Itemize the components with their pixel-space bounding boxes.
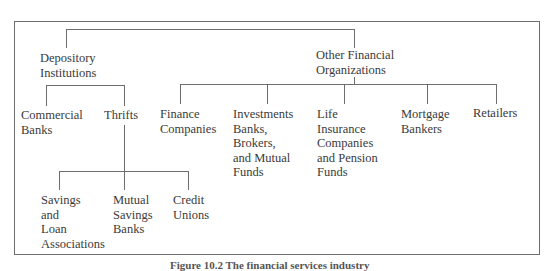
node-line: Savings — [113, 208, 153, 223]
connector-other-horizontal — [180, 84, 497, 85]
node-line: Companies — [317, 136, 378, 151]
node-line: Organizations — [316, 63, 394, 78]
node-line: Institutions — [40, 66, 96, 81]
node-line: Finance — [160, 107, 216, 122]
node-credit-unions: Credit Unions — [173, 193, 209, 222]
node-thrifts: Thrifts — [104, 108, 138, 123]
connector-to-mortgage-bankers — [427, 84, 428, 104]
figure-caption: Figure 10.2 The financial services indus… — [170, 259, 369, 271]
node-line: Insurance — [317, 122, 378, 137]
connector-to-investment-banks — [267, 84, 268, 104]
node-life-insurance: Life Insurance Companies and Pension Fun… — [317, 107, 378, 180]
connector-depository-horizontal — [46, 85, 125, 86]
node-other-financial-organizations: Other Financial Organizations — [316, 48, 394, 77]
node-line: Funds — [233, 165, 293, 180]
node-mortgage-bankers: Mortgage Bankers — [401, 107, 450, 136]
connector-root-to-depository — [66, 29, 67, 48]
node-line: Thrifts — [104, 108, 138, 123]
node-line: Banks, — [233, 122, 293, 137]
connector-to-savings-loan — [59, 171, 60, 190]
connector-to-finance-companies — [180, 84, 181, 104]
node-line: Companies — [160, 122, 216, 137]
node-line: Brokers, — [233, 136, 293, 151]
node-line: Other Financial — [316, 48, 394, 63]
node-savings-and-loan: Savings and Loan Associations — [41, 193, 105, 251]
node-line: Savings — [41, 193, 105, 208]
connector-thrifts-down — [124, 125, 125, 190]
connector-thrifts-horizontal — [59, 171, 189, 172]
connector-to-retailers — [496, 84, 497, 104]
node-line: Funds — [317, 165, 378, 180]
node-retailers: Retailers — [473, 106, 517, 121]
node-line: Life — [317, 107, 378, 122]
node-investment-banks: Investments Banks, Brokers, and Mutual F… — [233, 107, 293, 180]
node-line: Mortgage — [401, 107, 450, 122]
node-line: Investments — [233, 107, 293, 122]
connector-root-horizontal — [66, 29, 355, 30]
node-line: Depository — [40, 51, 96, 66]
connector-to-thrifts — [124, 85, 125, 106]
connector-other-down — [354, 77, 355, 84]
node-line: and Mutual — [233, 151, 293, 166]
node-line: Banks — [21, 123, 83, 138]
node-line: Commercial — [21, 108, 83, 123]
connector-root-to-other — [354, 29, 355, 48]
node-commercial-banks: Commercial Banks — [21, 108, 83, 137]
connector-to-credit-unions — [188, 171, 189, 190]
node-line: and Pension — [317, 151, 378, 166]
node-line: Associations — [41, 237, 105, 252]
node-line: Credit — [173, 193, 209, 208]
node-depository-institutions: Depository Institutions — [40, 51, 96, 80]
node-line: and — [41, 208, 105, 223]
connector-to-life-insurance — [344, 84, 345, 104]
node-finance-companies: Finance Companies — [160, 107, 216, 136]
connector-to-commercial-banks — [46, 85, 47, 106]
node-line: Mutual — [113, 193, 153, 208]
node-line: Unions — [173, 208, 209, 223]
node-line: Bankers — [401, 122, 450, 137]
node-mutual-savings-banks: Mutual Savings Banks — [113, 193, 153, 237]
node-line: Loan — [41, 222, 105, 237]
node-line: Banks — [113, 222, 153, 237]
node-line: Retailers — [473, 106, 517, 121]
